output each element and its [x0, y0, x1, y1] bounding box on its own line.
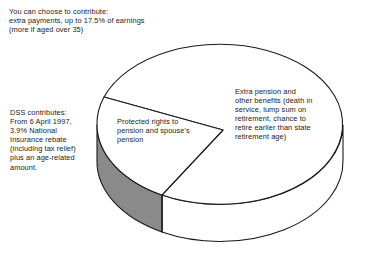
- callout-extra-pension-benefits: Extra pension and other benefits (death …: [235, 87, 331, 142]
- callout-dss-contributions: DSS contributes: From 6 April 1997, 3.9%…: [10, 108, 96, 172]
- pension-pie-diagram: You can choose to contribute: extra paym…: [0, 0, 366, 256]
- callout-protected-rights: Protected rights to pension and spouse's…: [117, 117, 209, 144]
- callout-employee-contributions: You can choose to contribute: extra paym…: [9, 7, 209, 34]
